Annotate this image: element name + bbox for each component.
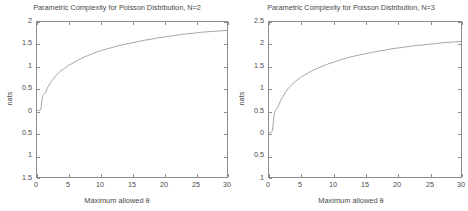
yaxis-title-n2: nats — [5, 87, 14, 111]
xtick-label-n3-2: 10 — [323, 181, 343, 189]
yaxis-title-n3: nats — [237, 87, 246, 111]
ytick-label-n2-1: 1.5 — [8, 39, 32, 47]
curve-n2 — [37, 22, 227, 177]
plot-panel-n3: Parametric Complexity for Poisson Distri… — [234, 0, 468, 211]
ytick-label-n2-0: 2 — [8, 17, 32, 25]
plot-axes-n3 — [268, 21, 462, 178]
xtick-label-n3-4: 20 — [387, 181, 407, 189]
xtick-label-n2-0: 0 — [26, 181, 46, 189]
xtick-label-n3-6: 30 — [451, 181, 468, 189]
xtick-label-n2-4: 20 — [154, 181, 174, 189]
ytick-label-n2-6: 1 — [8, 151, 32, 159]
xaxis-title-n3: Maximum allowed θ — [234, 196, 468, 205]
xtick-label-n3-5: 25 — [420, 181, 440, 189]
figure-container: Parametric Complexity for Poisson Distri… — [0, 0, 468, 211]
plot-panel-n2: Parametric Complexity for Poisson Distri… — [0, 0, 234, 211]
ytick-label-n3-1: 2 — [238, 39, 264, 47]
xtick-label-n2-3: 15 — [122, 181, 142, 189]
plot-axes-n2 — [36, 21, 228, 178]
ytick-label-n2-5: 0.5 — [8, 129, 32, 137]
xtick-label-n2-5: 25 — [186, 181, 206, 189]
ytick-label-n3-5: 0 — [238, 129, 264, 137]
curve-n3 — [269, 22, 461, 177]
xtick-label-n2-1: 5 — [58, 181, 78, 189]
xtick-label-n2-2: 10 — [90, 181, 110, 189]
xaxis-title-n2: Maximum allowed θ — [0, 196, 234, 205]
plot-title-n2: Parametric Complexity for Poisson Distri… — [0, 2, 234, 13]
ytick-label-n2-2: 1 — [8, 62, 32, 70]
ytick-label-n3-2: 1.5 — [238, 62, 264, 70]
xtick-label-n3-0: 0 — [258, 181, 278, 189]
ytick-label-n3-0: 2.5 — [238, 17, 264, 25]
plot-title-n3: Parametric Complexity for Poisson Distri… — [234, 2, 468, 13]
xtick-label-n3-1: 5 — [290, 181, 310, 189]
ytick-label-n3-6: 0.5 — [238, 151, 264, 159]
xtick-label-n3-3: 15 — [355, 181, 375, 189]
